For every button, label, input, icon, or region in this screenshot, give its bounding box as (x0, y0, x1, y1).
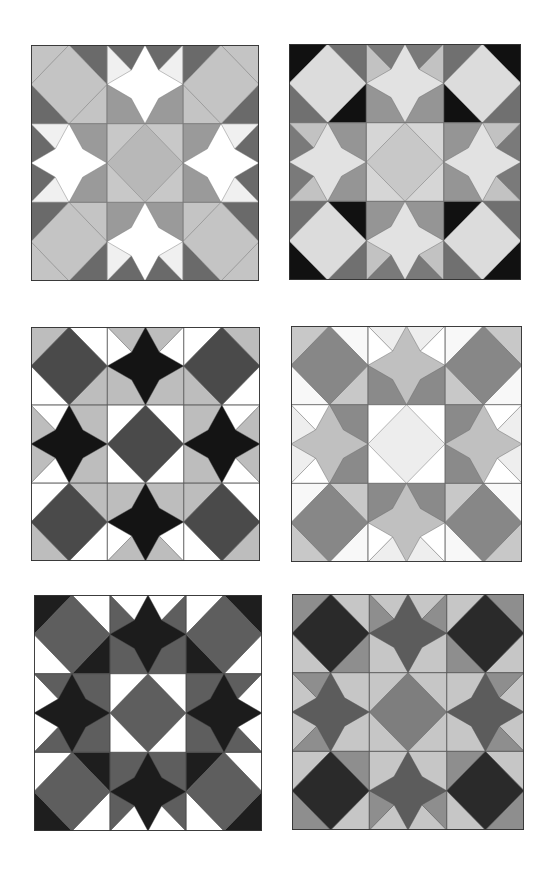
quilt-block-3 (31, 327, 260, 561)
corner-square-in-square (447, 594, 524, 673)
corner-square-in-square (447, 751, 524, 830)
edge-star-cell (183, 124, 259, 203)
corner-square-in-square (184, 483, 260, 561)
edge-star-cell (31, 124, 107, 203)
edge-star-cell (110, 595, 186, 674)
edge-star-cell (289, 123, 366, 202)
corner-square-in-square (31, 327, 107, 405)
center-square-in-square (368, 405, 445, 484)
edge-star-cell (369, 594, 446, 673)
center-square-in-square (110, 674, 186, 753)
quilt-block-2 (289, 44, 521, 280)
edge-star-cell (34, 674, 110, 753)
corner-square-in-square (184, 327, 260, 405)
quilt-block-4 (291, 326, 522, 562)
edge-star-cell (369, 751, 446, 830)
corner-square-in-square (291, 483, 368, 562)
edge-star-cell (368, 483, 445, 562)
corner-square-in-square (186, 595, 262, 674)
corner-square-in-square (291, 326, 368, 405)
corner-square-in-square (34, 595, 110, 674)
corner-square-in-square (444, 201, 521, 280)
edge-star-cell (31, 405, 107, 483)
corner-square-in-square (292, 751, 369, 830)
quilt-block-1 (31, 45, 259, 281)
edge-star-cell (291, 405, 368, 484)
edge-star-cell (366, 44, 443, 123)
corner-square-in-square (34, 752, 110, 831)
edge-star-cell (107, 202, 183, 281)
corner-square-in-square (292, 594, 369, 673)
center-square-in-square (107, 124, 183, 203)
edge-star-cell (107, 327, 183, 405)
edge-star-cell (366, 201, 443, 280)
center-square-in-square (107, 405, 183, 483)
corner-square-in-square (445, 483, 522, 562)
corner-square-in-square (289, 201, 366, 280)
center-square-in-square (366, 123, 443, 202)
corner-square-in-square (444, 44, 521, 123)
edge-star-cell (107, 45, 183, 124)
corner-square-in-square (186, 752, 262, 831)
corner-square-in-square (183, 202, 259, 281)
quilt-block-5 (34, 595, 262, 831)
edge-star-cell (186, 674, 262, 753)
corner-square-in-square (31, 45, 107, 124)
edge-star-cell (292, 673, 369, 752)
corner-square-in-square (183, 45, 259, 124)
quilt-block-6 (292, 594, 524, 830)
edge-star-cell (447, 673, 524, 752)
corner-square-in-square (289, 44, 366, 123)
corner-square-in-square (31, 483, 107, 561)
edge-star-cell (184, 405, 260, 483)
edge-star-cell (368, 326, 445, 405)
center-square-in-square (369, 673, 446, 752)
edge-star-cell (444, 123, 521, 202)
corner-square-in-square (31, 202, 107, 281)
corner-square-in-square (445, 326, 522, 405)
edge-star-cell (445, 405, 522, 484)
edge-star-cell (107, 483, 183, 561)
edge-star-cell (110, 752, 186, 831)
